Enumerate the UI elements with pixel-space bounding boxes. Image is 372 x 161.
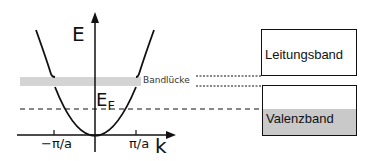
- fermi-label-sub: F: [107, 98, 114, 113]
- conduction-band-label: Leitungsband: [265, 47, 343, 62]
- fermi-level-label: EF: [96, 91, 115, 112]
- valence-band-label: Valenzband: [266, 111, 334, 126]
- fermi-label-main: E: [96, 89, 107, 110]
- y-axis-label: E: [72, 24, 85, 44]
- tick-label-neg-pi-a: −π/a: [41, 137, 72, 150]
- y-axis-arrow-icon: [91, 12, 99, 23]
- conduction-band-box: Leitungsband: [261, 29, 357, 76]
- band-gap-label: Bandlücke: [143, 76, 190, 85]
- upper-band-curve-left: [36, 30, 55, 77]
- valence-band-box: Valenzband: [262, 85, 357, 136]
- x-axis-label: k: [155, 136, 167, 156]
- x-axis-arrow-icon: [166, 131, 176, 139]
- tick-label-pi-a: π/a: [129, 137, 149, 150]
- upper-band-curve-right: [136, 30, 154, 77]
- band-gap-region: [20, 77, 141, 86]
